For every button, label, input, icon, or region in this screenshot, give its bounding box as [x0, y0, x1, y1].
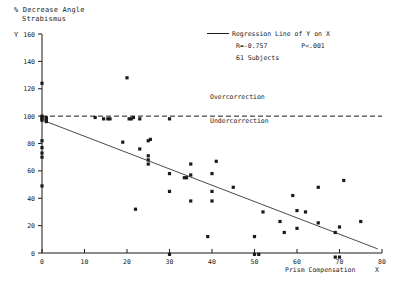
data-point [147, 158, 150, 161]
y-tick-label: 140 [23, 58, 35, 66]
regression-line [46, 122, 378, 249]
data-point [121, 141, 124, 144]
data-point [210, 199, 213, 202]
data-point [189, 173, 192, 176]
data-point [210, 172, 213, 175]
data-point [40, 119, 43, 122]
data-point [134, 208, 137, 211]
data-point [253, 253, 256, 256]
data-point [138, 117, 141, 120]
data-point [108, 117, 111, 120]
data-point [283, 231, 286, 234]
data-point [168, 117, 171, 120]
data-point-group [40, 76, 362, 259]
plot-area: 020406080100120140160 01020304050607080 [0, 0, 399, 291]
data-point [40, 82, 43, 85]
data-point [295, 209, 298, 212]
data-point [206, 235, 209, 238]
data-point [185, 176, 188, 179]
scatter-chart: % Decrease Angle Strabismus Y Regression… [0, 0, 399, 291]
data-point [125, 76, 128, 79]
data-point [147, 162, 150, 165]
data-point [291, 194, 294, 197]
y-tick-label: 20 [27, 222, 35, 230]
data-point [147, 154, 150, 157]
y-tick-label: 100 [23, 113, 35, 121]
data-point [40, 146, 43, 149]
y-tick-label: 80 [27, 140, 35, 148]
data-point [102, 117, 105, 120]
data-point [342, 179, 345, 182]
data-point [257, 253, 260, 256]
x-tick-label: 0 [40, 258, 44, 266]
data-point [232, 186, 235, 189]
y-axis: 020406080100120140160 [23, 31, 42, 258]
data-point [317, 186, 320, 189]
data-point [317, 221, 320, 224]
data-point [45, 120, 48, 123]
data-point [94, 116, 97, 119]
data-point [278, 220, 281, 223]
x-tick-label: 20 [123, 258, 131, 266]
y-tick-label: 160 [23, 31, 35, 39]
x-tick-label: 40 [208, 258, 216, 266]
x-tick-label: 10 [81, 258, 89, 266]
data-point [334, 256, 337, 259]
data-point [138, 147, 141, 150]
data-point [168, 253, 171, 256]
x-tick-label: 60 [293, 258, 301, 266]
data-point [132, 116, 135, 119]
data-point [338, 256, 341, 259]
data-point [338, 225, 341, 228]
data-point [40, 139, 43, 142]
data-point [334, 231, 337, 234]
x-tick-label: 30 [166, 258, 174, 266]
y-tick-label: 40 [27, 195, 35, 203]
data-point [189, 162, 192, 165]
data-point [189, 199, 192, 202]
data-point [40, 151, 43, 154]
x-tick-label: 80 [378, 258, 386, 266]
x-tick-label: 50 [251, 258, 259, 266]
data-point [215, 160, 218, 163]
data-point [40, 184, 43, 187]
y-tick-label: 60 [27, 167, 35, 175]
data-point [168, 172, 171, 175]
data-point [149, 138, 152, 141]
data-point [253, 235, 256, 238]
x-tick-label: 70 [336, 258, 344, 266]
y-tick-label: 120 [23, 85, 35, 93]
data-point [168, 190, 171, 193]
data-point [304, 210, 307, 213]
data-point [295, 227, 298, 230]
data-point [40, 156, 43, 159]
data-point [359, 220, 362, 223]
data-point [261, 210, 264, 213]
y-tick-label: 0 [31, 250, 35, 258]
data-point [210, 190, 213, 193]
